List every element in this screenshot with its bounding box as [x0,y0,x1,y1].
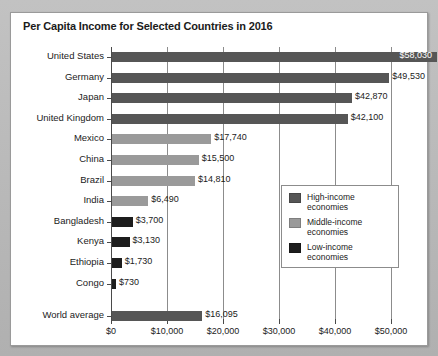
legend-swatch-high [289,193,301,203]
bar[interactable] [112,52,437,62]
y-tick-mark [107,181,111,182]
bar[interactable] [112,176,195,186]
legend-label: Low-income economies [307,242,392,262]
bar[interactable] [112,134,211,144]
category-label: Brazil [80,174,104,185]
bar[interactable] [112,279,116,289]
y-tick-mark [107,139,111,140]
bar[interactable] [112,73,389,83]
bar-row: Congo$730 [111,274,419,295]
bar-value-label: $3,700 [136,215,164,225]
bar[interactable] [112,258,122,268]
y-tick-mark [107,119,111,120]
legend-label: High-income economies [307,192,392,212]
legend-item[interactable]: Middle-income economies [289,217,392,237]
bar-value-label: $14,810 [198,174,231,184]
legend-item[interactable]: High-income economies [289,192,392,212]
legend: High-income economiesMiddle-income econo… [281,185,399,268]
bar-value-label: $15,500 [202,153,235,163]
bar[interactable] [112,311,202,321]
y-tick-mark [107,242,111,243]
y-tick-mark [107,78,111,79]
bar-row: World average$16,095 [111,306,419,327]
category-label: India [83,194,104,205]
figure: Per Capita Income for Selected Countries… [0,0,438,356]
category-label: China [79,153,104,164]
x-tick-label: $10,000 [151,326,184,336]
y-tick-mark [107,160,111,161]
bar-row: Japan$42,870 [111,88,419,109]
bar[interactable] [112,217,133,227]
bar-row: Mexico$17,740 [111,129,419,150]
bar[interactable] [112,93,352,103]
bar-value-label: $17,740 [214,132,247,142]
bar-row: China$15,500 [111,150,419,171]
category-label: United Kingdom [36,112,104,123]
category-label: Congo [76,277,104,288]
x-tick-label: $40,000 [319,326,352,336]
category-label: Japan [78,91,104,102]
category-label: United States [47,50,104,61]
bar[interactable] [112,155,199,165]
y-tick-mark [107,222,111,223]
category-label: Bangladesh [54,215,104,226]
bar-row: United States$58,030 [111,47,419,68]
bar[interactable] [112,237,130,247]
category-label: World average [42,309,104,320]
bar-row: Germany$49,530 [111,68,419,89]
legend-swatch-middle [289,218,301,228]
bar[interactable] [112,114,348,124]
x-tick-label: $0 [106,326,116,336]
category-label: Mexico [74,132,104,143]
category-label: Ethiopia [70,256,104,267]
bar-value-label: $3,130 [133,235,161,245]
x-tick-label: $20,000 [207,326,240,336]
y-tick-mark [107,98,111,99]
bar-row: United Kingdom$42,100 [111,109,419,130]
bar[interactable] [112,196,148,206]
x-tick-label: $50,000 [375,326,408,336]
y-tick-mark [107,316,111,317]
legend-label: Middle-income economies [307,217,392,237]
bar-value-label: $6,490 [151,194,179,204]
y-tick-mark [107,263,111,264]
bar-value-label: $42,870 [355,91,388,101]
category-label: Germany [65,71,104,82]
y-tick-mark [107,201,111,202]
bar-value-label: $730 [119,277,139,287]
y-tick-mark [107,284,111,285]
legend-swatch-low [289,243,301,253]
chart-title: Per Capita Income for Selected Countries… [23,20,273,32]
bar-value-label: $49,530 [392,71,425,81]
plot-area: $0$10,000$20,000$30,000$40,000$50,000 Un… [111,47,419,319]
chart-panel: Per Capita Income for Selected Countries… [10,12,428,346]
y-tick-mark [107,57,111,58]
bar-value-label: $1,730 [125,256,153,266]
x-tick-label: $30,000 [263,326,296,336]
bar-value-label: $16,095 [205,309,238,319]
category-label: Kenya [77,235,104,246]
bar-value-label: $42,100 [351,112,384,122]
bar-value-label: $58,030 [399,50,432,60]
legend-item[interactable]: Low-income economies [289,242,392,262]
